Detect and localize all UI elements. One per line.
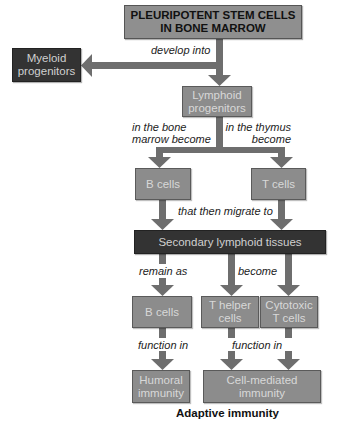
node-cytotoxic-line1: Cytotoxic xyxy=(265,299,312,312)
label-function-in-2: function in xyxy=(232,339,282,351)
label-develop-into: develop into xyxy=(151,44,210,56)
node-myeloid-line1: Myeloid xyxy=(27,52,67,65)
node-humoral: Humoral immunity xyxy=(132,370,190,403)
node-humoral-line2: immunity xyxy=(138,387,184,400)
label-migrate: that then migrate to xyxy=(178,205,273,217)
node-t-cells-label: T cells xyxy=(262,178,295,191)
node-cytotoxic-line2: T cells xyxy=(272,312,305,325)
label-thymus-line1: in the thymus xyxy=(225,121,291,133)
label-bone-marrow-line1: in the bone xyxy=(132,121,211,133)
node-lymphoid-line1: Lymphoid xyxy=(192,89,241,102)
node-stem-cells-line1: PLEURIPOTENT STEM CELLS xyxy=(131,9,296,22)
label-bone-marrow: in the bone marrow become xyxy=(132,121,211,145)
node-secondary-lymphoid: Secondary lymphoid tissues xyxy=(134,230,326,254)
branch-bar xyxy=(156,147,285,153)
label-remain-as: remain as xyxy=(139,265,187,277)
label-function-in-1: function in xyxy=(138,339,188,351)
node-lymphoid-line2: progenitors xyxy=(188,102,246,115)
label-thymus: in the thymus become xyxy=(225,121,291,145)
node-t-helper-line1: T helper xyxy=(209,299,251,312)
node-t-helper-line2: cells xyxy=(218,312,241,325)
arrowhead-b-cells xyxy=(148,157,171,168)
label-become: become xyxy=(238,265,277,277)
node-t-cells: T cells xyxy=(251,168,306,200)
node-b-cells: B cells xyxy=(135,168,191,200)
node-stem-cells-line2: IN BONE MARROW xyxy=(160,22,265,35)
node-myeloid: Myeloid progenitors xyxy=(12,48,81,82)
node-cell-mediated-line1: Cell-mediated xyxy=(227,374,298,387)
node-b-cells-2: B cells xyxy=(132,296,192,328)
label-thymus-line2: become xyxy=(225,133,291,145)
caption-adaptive-immunity: Adaptive immunity xyxy=(176,407,279,419)
arrow-trunk xyxy=(216,39,223,75)
arrowhead-t-cells xyxy=(270,157,293,168)
node-cell-mediated-line2: immunity xyxy=(239,387,285,400)
arrowhead-lymphoid xyxy=(208,75,231,86)
node-cytotoxic: Cytotoxic T cells xyxy=(260,296,318,328)
arrowhead-myeloid xyxy=(81,54,92,77)
arrow-myeloid-shaft xyxy=(92,62,223,69)
node-humoral-line1: Humoral xyxy=(139,374,182,387)
node-stem-cells: PLEURIPOTENT STEM CELLS IN BONE MARROW xyxy=(124,5,302,39)
node-t-helper: T helper cells xyxy=(201,296,259,328)
node-lymphoid: Lymphoid progenitors xyxy=(182,86,252,117)
node-myeloid-line2: progenitors xyxy=(18,65,76,78)
node-secondary-label: Secondary lymphoid tissues xyxy=(158,236,301,249)
node-b-cells-label: B cells xyxy=(146,178,180,191)
node-b-cells-2-label: B cells xyxy=(145,306,179,319)
label-bone-marrow-line2: marrow become xyxy=(132,133,211,145)
node-cell-mediated: Cell-mediated immunity xyxy=(203,370,321,403)
